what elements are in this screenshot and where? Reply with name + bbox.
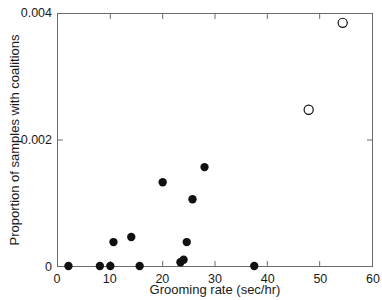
y-tick-label: 0.004 [21,7,52,20]
scatter-plot-figure: 00.0020.004 0102030405060 Grooming rate … [0,0,382,300]
y-axis-title: Proportion of samples with coalitions [8,35,21,246]
y-tick-label: 0.002 [21,134,52,147]
data-points-layer [58,14,372,266]
y-axis-title-wrapper: Proportion of samples with coalitions [14,0,15,300]
x-axis-title: Grooming rate (sec/hr) [57,283,373,296]
y-tick-label: 0 [45,261,52,274]
plot-area [57,13,373,267]
